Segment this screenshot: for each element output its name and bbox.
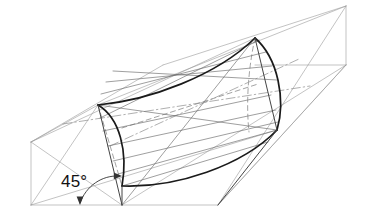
ruling-line bbox=[122, 142, 268, 186]
ruling-line bbox=[118, 130, 277, 174]
left-vertical-edge bbox=[98, 105, 122, 205]
surface-principal-curves bbox=[98, 38, 281, 186]
structural-edges bbox=[98, 38, 277, 205]
generatrix-curve-lower bbox=[122, 130, 277, 186]
ruling-line bbox=[108, 110, 276, 146]
angle-label-45-degrees: 45° bbox=[61, 172, 87, 191]
directrix-curve-right bbox=[255, 38, 281, 130]
right-end-rib bbox=[218, 130, 277, 205]
right-end-diag-b bbox=[218, 65, 346, 205]
technical-drawing-figure: 45° bbox=[0, 0, 368, 224]
warped-surface-isometric-drawing: 45° bbox=[0, 0, 368, 224]
base-upper-right-edge bbox=[163, 6, 346, 65]
right-end-diag-a bbox=[218, 6, 346, 205]
surface-ruling-lines bbox=[98, 38, 278, 205]
long-ruled-edge-crossing bbox=[98, 6, 346, 105]
long-ruled-edge-upper bbox=[31, 38, 255, 142]
arrowhead-down bbox=[77, 197, 84, 205]
